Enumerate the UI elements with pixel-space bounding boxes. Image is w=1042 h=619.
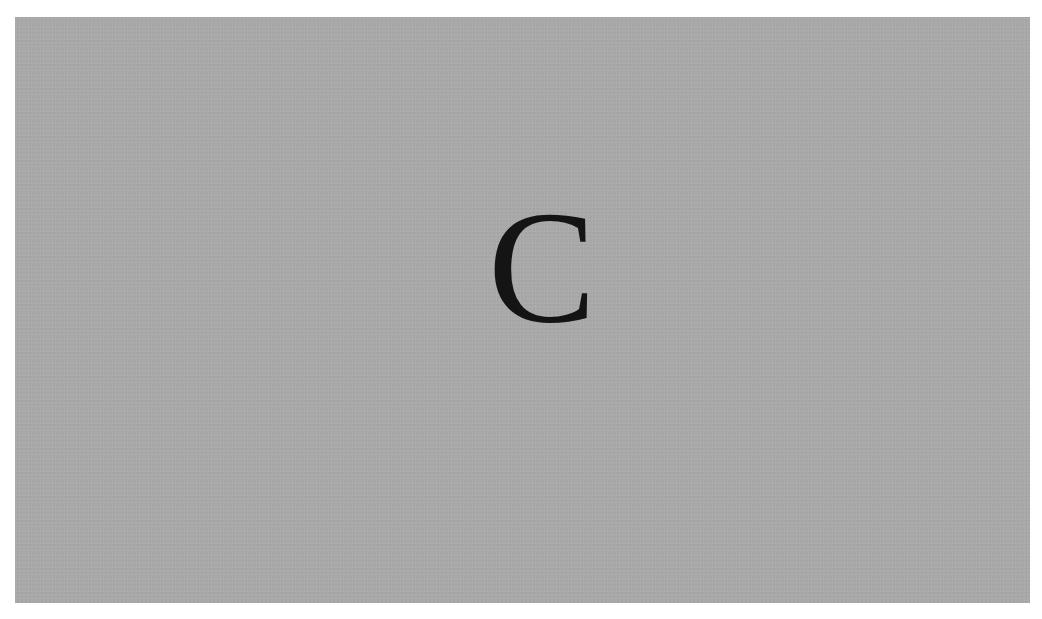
letter-card: C: [15, 17, 1030, 603]
card-letter: C: [477, 167, 607, 367]
